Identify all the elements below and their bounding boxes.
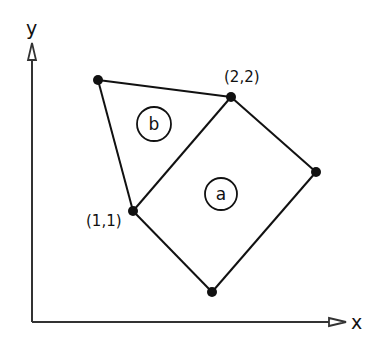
x-axis-arrow-icon [329,318,346,326]
point-label-2-2: (2,2) [224,68,260,86]
x-axis-label: x [351,311,362,333]
axes: y x [26,17,362,333]
svg-text:a: a [216,184,226,204]
point-right [311,167,321,177]
region-b [98,80,231,211]
y-axis-arrow-icon [28,43,36,60]
point-label-1-1: (1,1) [86,212,122,230]
svg-text:b: b [149,114,160,134]
point-bottom [207,287,217,297]
region-label-b: b [137,107,171,141]
point-1-1 [128,206,138,216]
region-label-a: a [205,178,237,210]
y-axis-label: y [26,17,37,39]
coordinate-diagram: y x (2,2) (1,1) b a [0,0,378,341]
point-top-left [93,75,103,85]
point-2-2 [226,92,236,102]
